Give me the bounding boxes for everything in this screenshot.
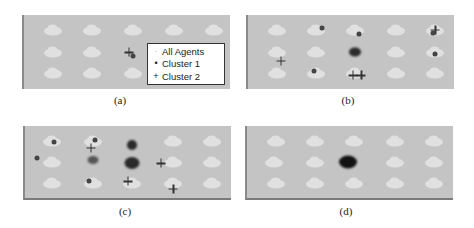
agent-blob [265, 159, 283, 168]
cluster-1-marker [93, 138, 98, 143]
agent-blob [44, 27, 62, 36]
caption-c: (c) [119, 205, 131, 217]
agent-blob [306, 179, 324, 188]
agent-blob [387, 27, 405, 36]
agent-blob [268, 27, 286, 36]
agent-blob [124, 27, 142, 36]
agent-blob [44, 70, 62, 79]
agent-blob [43, 159, 61, 168]
cluster-marker-group [349, 48, 361, 57]
caption-a: (a) [114, 94, 126, 106]
agent-blob [124, 70, 142, 79]
cluster-1-marker [51, 139, 56, 144]
legend-item-cluster-2: + Cluster 2 [152, 70, 224, 83]
legend-label: Cluster 2 [162, 71, 200, 82]
agent-blob [164, 137, 182, 146]
agent-blob [345, 179, 363, 188]
cluster-marker-group [87, 156, 98, 164]
agent-blob [203, 179, 221, 188]
cluster-2-marker [276, 56, 285, 65]
cluster-1-marker [35, 156, 40, 161]
cluster-2-symbol-icon: + [152, 72, 160, 81]
caption-d: (d) [340, 205, 353, 217]
legend-label: All Agents [162, 46, 204, 57]
agent-blob [425, 159, 443, 168]
cluster-marker-group [127, 140, 137, 150]
caption-b: (b) [342, 94, 355, 106]
panel-b [246, 15, 454, 89]
agent-blob [203, 159, 221, 168]
cluster-1-marker [86, 178, 91, 183]
panel-c [23, 126, 231, 200]
agent-blob [83, 70, 101, 79]
agent-blob [386, 137, 404, 146]
agent-blob [203, 137, 221, 146]
agent-blob [386, 179, 404, 188]
agent-blob [268, 70, 286, 79]
panel-d [245, 126, 453, 200]
all-agents-symbol-icon: · [152, 47, 160, 56]
agent-blob [83, 27, 101, 36]
agent-blob [345, 137, 363, 146]
cluster-2-marker [169, 184, 178, 193]
agent-blob [306, 137, 324, 146]
cluster-1-marker [431, 30, 436, 35]
legend-item-all-agents: · All Agents [152, 45, 224, 58]
agent-blob [307, 49, 325, 58]
cluster-1-marker [131, 53, 136, 58]
converged-cluster-marker [339, 156, 357, 169]
cluster-2-marker [156, 159, 165, 168]
agent-blob [425, 179, 443, 188]
cluster-marker-group [125, 157, 140, 169]
agent-blob [387, 49, 405, 58]
cluster-1-marker [357, 31, 362, 36]
cluster-2-marker [86, 143, 95, 152]
agent-blob [386, 159, 404, 168]
agent-blob [306, 159, 324, 168]
cluster-1-marker [433, 52, 438, 57]
cluster-1-marker [320, 25, 325, 30]
agent-blob [43, 179, 61, 188]
agent-blob [44, 49, 62, 58]
agent-blob [426, 70, 444, 79]
agent-blob [164, 159, 182, 168]
agent-blob [83, 49, 101, 58]
agent-blob [205, 27, 223, 36]
cluster-1-symbol-icon: • [152, 59, 160, 68]
legend: · All Agents • Cluster 1 + Cluster 2 [147, 43, 225, 85]
cluster-2-marker [124, 177, 133, 186]
legend-label: Cluster 1 [162, 58, 200, 69]
agent-blob [387, 70, 405, 79]
cluster-1-marker [311, 69, 316, 74]
agent-blob [267, 137, 285, 146]
agent-blob [425, 137, 443, 146]
legend-item-cluster-1: • Cluster 1 [152, 58, 224, 71]
cluster-2-marker [357, 70, 366, 79]
agent-blob [165, 27, 183, 36]
agent-blob [267, 179, 285, 188]
